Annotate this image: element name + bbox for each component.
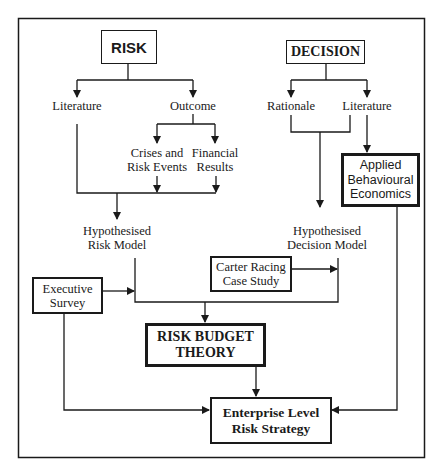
risk-literature-label: Literature xyxy=(37,99,117,113)
rbt-node: RISK BUDGET THEORY xyxy=(145,323,266,367)
enterprise-label: Enterprise Level Risk Strategy xyxy=(223,405,319,437)
enterprise-node: Enterprise Level Risk Strategy xyxy=(210,397,332,444)
carter-node: Carter Racing Case Study xyxy=(210,256,292,292)
exec-survey-label: Executive Survey xyxy=(43,282,93,310)
carter-label: Carter Racing Case Study xyxy=(216,260,286,288)
hyp-decision-label: Hypothesised Decision Model xyxy=(272,224,382,252)
risk-node: RISK xyxy=(101,30,157,64)
hyp-risk-label: Hypothesised Risk Model xyxy=(67,224,167,252)
abe-label: Applied Behavioural Economics xyxy=(347,158,413,202)
rbt-label: RISK BUDGET THEORY xyxy=(157,329,254,361)
abe-node: Applied Behavioural Economics xyxy=(341,153,420,207)
rationale-label: Rationale xyxy=(251,99,331,113)
exec-survey-node: Executive Survey xyxy=(32,277,103,314)
outcome-label: Outcome xyxy=(153,99,233,113)
decision-label: DECISION xyxy=(291,44,360,60)
decision-literature-label: Literature xyxy=(327,99,407,113)
financial-label: Financial Results xyxy=(180,146,250,174)
risk-label: RISK xyxy=(111,39,147,56)
decision-node: DECISION xyxy=(286,40,365,64)
